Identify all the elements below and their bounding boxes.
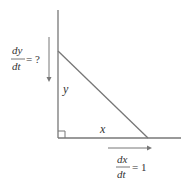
right-angle-marker — [58, 131, 65, 138]
related-rates-diagram: y x dy dt = ? dx dt = 1 — [0, 0, 186, 185]
dx-dt-value: = 1 — [132, 161, 146, 173]
dx-dt-arrow-icon — [108, 146, 152, 151]
dy-dt-numerator: dy — [12, 44, 23, 56]
dy-dt-arrow-icon — [47, 37, 52, 82]
dy-dt-denominator: dt — [12, 60, 22, 72]
dy-dt-value: = ? — [26, 53, 40, 65]
dx-dt-denominator: dt — [117, 168, 127, 180]
dx-dt-numerator: dx — [117, 153, 128, 165]
label-y: y — [62, 82, 69, 96]
label-x: x — [99, 122, 106, 136]
